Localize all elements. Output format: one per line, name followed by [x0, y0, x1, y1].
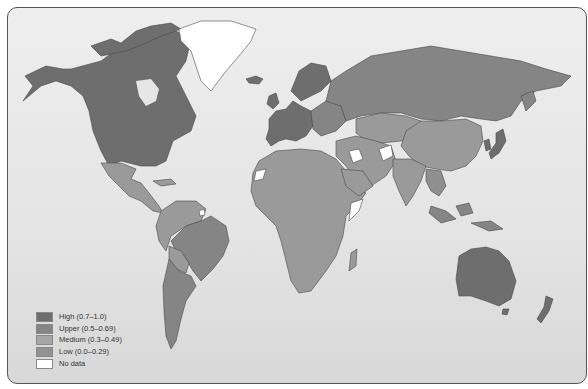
legend-label: Upper (0.5–0.69)	[59, 324, 116, 334]
map-frame: High (0.7–1.0) Upper (0.5–0.69) Medium (…	[7, 7, 587, 384]
region-mexico-central-america	[101, 163, 163, 213]
region-southern-cone	[163, 259, 196, 349]
legend-swatch	[36, 359, 53, 369]
region-greenland	[179, 21, 256, 91]
legend-item-no-data: No data	[36, 358, 122, 370]
legend-item-high: High (0.7–1.0)	[36, 311, 122, 323]
legend-label: Low (0.0–0.29)	[59, 347, 109, 357]
region-south-asia	[393, 159, 426, 206]
legend-label: Medium (0.3–0.49)	[59, 335, 122, 345]
region-scandinavia	[291, 63, 331, 101]
legend-label: High (0.7–1.0)	[59, 312, 107, 322]
legend-item-low: Low (0.0–0.29)	[36, 346, 122, 358]
region-maritime-southeast-asia	[429, 203, 503, 231]
region-australia	[456, 247, 516, 306]
region-russia	[326, 46, 571, 121]
legend-swatch	[36, 347, 53, 357]
legend-swatch	[36, 324, 53, 334]
region-new-zealand	[537, 296, 553, 323]
legend-swatch	[36, 312, 53, 322]
map-legend: High (0.7–1.0) Upper (0.5–0.69) Medium (…	[36, 311, 122, 370]
legend-item-medium: Medium (0.3–0.49)	[36, 335, 122, 347]
legend-label: No data	[59, 359, 85, 369]
legend-swatch	[36, 335, 53, 345]
region-iceland	[246, 76, 263, 84]
region-japan	[489, 129, 506, 159]
legend-item-upper: Upper (0.5–0.69)	[36, 323, 122, 335]
